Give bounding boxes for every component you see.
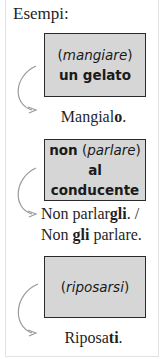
example-3-result: Riposati. — [0, 327, 165, 348]
curved-arrow-icon — [0, 0, 165, 359]
